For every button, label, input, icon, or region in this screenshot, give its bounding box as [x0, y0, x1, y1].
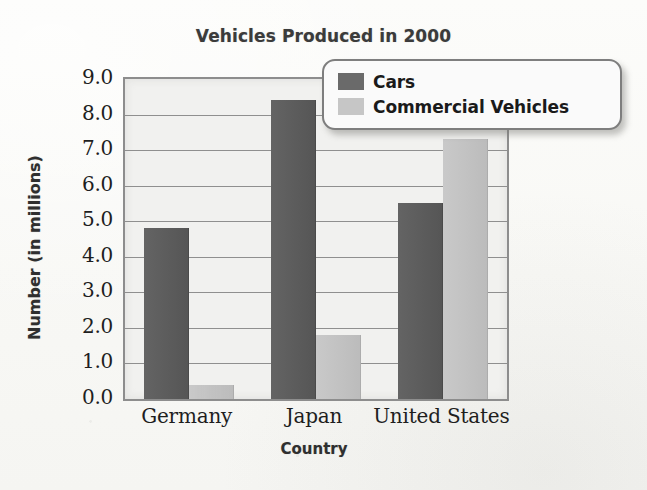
y-tick-label: 7.0 — [49, 136, 113, 160]
y-tick-label: 4.0 — [49, 243, 113, 267]
y-tick-label: 2.0 — [49, 314, 113, 338]
x-axis-title: Country — [123, 440, 505, 458]
legend-label-commercial-vehicles: Commercial Vehicles — [373, 97, 569, 117]
bar-japan-cars — [271, 100, 316, 399]
x-label-united-states: United States — [373, 404, 509, 428]
bar-japan-commercial-vehicles — [316, 335, 361, 399]
legend-entry-commercial-vehicles: Commercial Vehicles — [338, 94, 608, 119]
y-tick-label: 9.0 — [49, 65, 113, 89]
legend-entry-cars: Cars — [338, 69, 608, 94]
x-label-japan: Japan — [286, 404, 343, 428]
chart-legend: Cars Commercial Vehicles — [322, 59, 622, 130]
y-tick-label: 3.0 — [49, 278, 113, 302]
y-tick-label: 1.0 — [49, 349, 113, 373]
y-tick-label: 5.0 — [49, 207, 113, 231]
commercial-vehicles-swatch-icon — [338, 98, 364, 115]
y-axis-title: Number (in millions) — [25, 128, 44, 368]
bar-germany-cars — [144, 228, 189, 399]
chart-title: Vehicles Produced in 2000 — [0, 26, 647, 46]
x-axis-category-labels: GermanyJapanUnited States — [123, 404, 505, 436]
legend-label-cars: Cars — [373, 72, 415, 92]
y-tick-label: 0.0 — [49, 385, 113, 409]
y-tick-label: 6.0 — [49, 172, 113, 196]
y-axis-tick-labels: 0.01.02.03.04.05.06.07.08.09.0 — [47, 77, 113, 397]
y-tick-label: 8.0 — [49, 101, 113, 125]
x-label-germany: Germany — [141, 404, 232, 428]
cars-swatch-icon — [338, 73, 364, 90]
bar-united-states-cars — [398, 203, 443, 399]
bar-germany-commercial-vehicles — [189, 385, 234, 399]
bar-united-states-commercial-vehicles — [443, 139, 488, 399]
